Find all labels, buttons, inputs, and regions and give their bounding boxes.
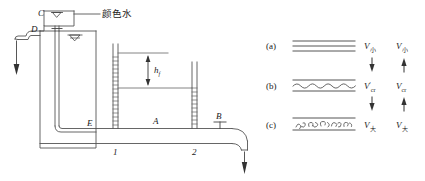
label-head-loss: hf [154,65,162,77]
reynolds-experiment-figure: C 颜色水 D E A B hf 1 2 (a) (b) (c) V小 V′cr… [0,0,425,181]
flow-regime-label-c: (c) [266,120,276,130]
colored-water-bottle [44,11,96,132]
valve-b-icon [214,122,226,129]
overflow-flow-arrow-icon [14,41,20,75]
velocity-left-c: V大 [364,120,376,133]
tank-free-surface-icon [68,35,82,41]
free-surface-triangle-icon [52,13,63,18]
transition-arrow-right-ba [401,58,406,72]
label-colored-water: 颜色水 [102,8,132,19]
transition-arrow-left-bc [369,97,374,111]
flow-regime-a-pattern [293,41,355,51]
velocity-left-a: V小 [364,41,376,54]
flow-regime-label-b: (b) [266,81,277,91]
velocity-right-a: V小 [396,41,408,54]
flow-regime-label-a: (a) [266,41,276,51]
outlet-flow-arrow-icon [242,152,247,174]
manometer-tube-2 [192,62,197,129]
label-tube-2: 2 [192,147,197,157]
flow-regime-b-pattern [293,80,355,91]
label-point-e: E [86,118,93,128]
velocity-left-b: V′cr [364,81,375,93]
label-point-a: A [152,116,159,126]
velocity-right-b: Vcr [396,81,406,93]
transition-arrow-right-cb [401,97,406,111]
manometer-tube-1 [113,44,118,129]
label-point-c: C [38,8,45,18]
label-tube-1: 1 [113,147,118,157]
constant-head-tank [40,31,96,148]
figure-canvas: C 颜色水 D E A B hf 1 2 (a) (b) (c) V小 V′cr… [0,0,425,181]
label-point-d: D [30,24,38,34]
velocity-right-c: V大 [396,120,408,133]
transition-arrow-left-ab [369,58,374,72]
label-point-b: B [216,111,222,121]
flow-regime-c-pattern [293,118,355,130]
